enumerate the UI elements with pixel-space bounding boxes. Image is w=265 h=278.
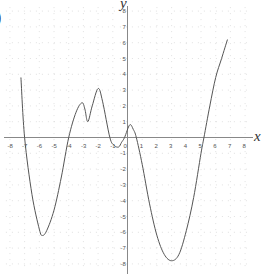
y-tick-label: -1 (121, 150, 127, 156)
function-graph: ) -8-7-6-5-4-3-2-1012345678 -8-7-6-5-4-3… (0, 0, 265, 278)
x-tick-label: 2 (154, 143, 158, 149)
y-tick-label: -8 (121, 261, 127, 267)
x-tick-label: 4 (184, 143, 188, 149)
y-tick-label: -3 (121, 182, 127, 188)
figure-label-partial: ) (0, 9, 1, 26)
x-tick-label: 3 (169, 143, 173, 149)
y-tick-label: -6 (121, 229, 127, 235)
x-tick-label: 7 (228, 143, 232, 149)
y-tick-label: -7 (121, 245, 127, 251)
x-tick-label: -1 (110, 143, 116, 149)
y-axis-label: y (118, 0, 127, 11)
x-tick-label: 8 (243, 143, 247, 149)
x-tick-label: 0 (124, 143, 128, 149)
x-axis-label: x (253, 128, 261, 144)
x-tick-label: -5 (52, 143, 58, 149)
y-tick-label: -2 (121, 166, 127, 172)
y-tick-label: -5 (121, 214, 127, 220)
x-tick-label: 6 (213, 143, 217, 149)
x-tick-label: -8 (7, 143, 13, 149)
x-tick-label: 1 (140, 143, 144, 149)
x-tick-label: -6 (37, 143, 43, 149)
y-tick-label: -4 (121, 198, 127, 204)
x-tick-label: -2 (96, 143, 102, 149)
x-tick-label: -3 (81, 143, 87, 149)
